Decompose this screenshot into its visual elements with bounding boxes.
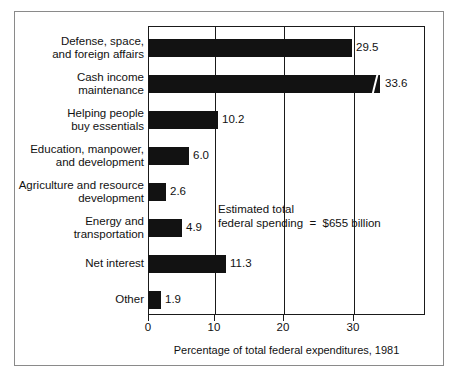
- category-label-helping-people: Helping people buy essentials: [8, 107, 148, 134]
- tick-label-0: 0: [145, 320, 151, 334]
- category-label-line2: maintenance: [78, 84, 144, 96]
- category-label-line1: Helping people: [67, 107, 144, 119]
- category-label-line1: Cash income: [77, 71, 144, 83]
- category-label-line2: transportation: [74, 228, 144, 240]
- category-label-net-interest: Net interest: [8, 257, 148, 271]
- category-label-wrap: Cash income maintenance: [0, 66, 148, 102]
- equals-icon: =: [309, 217, 316, 229]
- category-label-wrap: Defense, space, and foreign affairs: [0, 30, 148, 66]
- tick-label-30: 30: [347, 320, 360, 334]
- category-label-wrap: Net interest: [0, 246, 148, 282]
- bar-cash-income: [148, 75, 380, 93]
- chart-figure: Defense, space, and foreign affairs Cash…: [0, 0, 457, 378]
- bar-defense: [148, 39, 352, 57]
- category-label-line2: development: [78, 192, 144, 204]
- bar-value-energy: 4.9: [186, 218, 202, 237]
- bar-value-agriculture: 2.6: [170, 182, 186, 201]
- bar-value-net-interest: 11.3: [230, 254, 252, 273]
- bar-value-other: 1.9: [165, 290, 181, 309]
- bar-value-defense: 29.5: [356, 38, 378, 57]
- note-line2-value: $655 billion: [323, 217, 381, 229]
- category-label-energy: Energy and transportation: [8, 215, 148, 242]
- bar-net-interest: [148, 255, 226, 273]
- category-label-wrap: Energy and transportation: [0, 210, 148, 246]
- category-label-defense: Defense, space, and foreign affairs: [8, 35, 148, 62]
- category-label-other: Other: [8, 293, 148, 307]
- category-label-wrap: Helping people buy essentials: [0, 102, 148, 138]
- category-label-wrap: Other: [0, 282, 148, 318]
- category-label-cash-income: Cash income maintenance: [8, 71, 148, 98]
- x-axis-caption: Percentage of total federal expenditures…: [148, 343, 425, 357]
- category-label-line2: and development: [56, 156, 144, 168]
- bar-agriculture: [148, 183, 166, 201]
- bar-value-helping-people: 10.2: [222, 110, 244, 129]
- category-label-line2: buy essentials: [71, 120, 144, 132]
- category-label-line1: Agriculture and resource: [19, 179, 144, 191]
- category-label-wrap: Education, manpower, and development: [0, 138, 148, 174]
- bar-value-education: 6.0: [193, 146, 209, 165]
- category-label-wrap: Agriculture and resource development: [0, 174, 148, 210]
- category-label-line1: Net interest: [85, 257, 144, 269]
- bar-helping-people: [148, 111, 218, 129]
- total-spending-note: Estimated total federal spending = $655 …: [218, 202, 381, 230]
- tick-label-10: 10: [208, 320, 221, 334]
- category-label-line2: and foreign affairs: [52, 48, 144, 60]
- bar-value-cash-income: 33.6: [385, 74, 407, 93]
- gridline-20: [284, 27, 285, 314]
- category-label-line1: Defense, space,: [61, 35, 144, 47]
- note-line-2: federal spending = $655 billion: [218, 216, 381, 230]
- bar-education: [148, 147, 189, 165]
- category-label-education: Education, manpower, and development: [8, 143, 148, 170]
- category-label-line1: Education, manpower,: [30, 143, 144, 155]
- bar-energy: [148, 219, 182, 237]
- gridline-30: [354, 27, 355, 314]
- tick-label-20: 20: [277, 320, 290, 334]
- category-label-agriculture: Agriculture and resource development: [8, 179, 148, 206]
- category-label-line1: Energy and: [85, 215, 144, 227]
- bar-other: [148, 291, 161, 309]
- note-line2-prefix: federal spending: [218, 217, 303, 229]
- category-label-line1: Other: [115, 293, 144, 305]
- note-line-1: Estimated total: [218, 202, 381, 216]
